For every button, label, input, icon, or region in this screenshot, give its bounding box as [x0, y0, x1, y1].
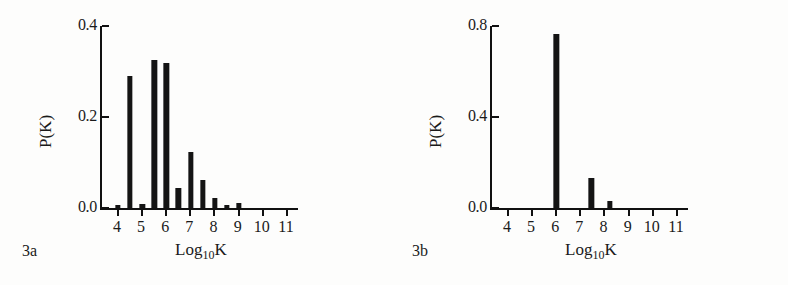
y-axis-title-3b: P(K): [426, 115, 446, 148]
x-tick-mark: 4: [507, 210, 509, 216]
x-tick-label: 8: [209, 218, 217, 236]
bar: [236, 203, 241, 208]
bar: [128, 76, 133, 208]
figure-container: P(K) 0.00.20.4 4567891011 Log10K 3a P(K)…: [0, 0, 788, 285]
panel-tag-3b: 3b: [412, 242, 428, 260]
panel-3b: P(K) 0.00.40.8 4567891011 Log10K 3b: [394, 0, 788, 285]
y-axis-title-3a: P(K): [36, 115, 56, 148]
y-tick-label: 0.4: [78, 16, 97, 34]
bar: [224, 205, 229, 208]
x-tick-label: 11: [668, 218, 683, 236]
y-tick-mark: 0.8: [492, 25, 499, 27]
y-tick-label: 0.4: [468, 107, 487, 125]
x-tick-mark: 10: [262, 210, 264, 216]
bar: [607, 201, 612, 208]
x-tick-label: 10: [254, 218, 270, 236]
y-tick-label: 0.8: [468, 16, 487, 34]
bar: [164, 63, 169, 208]
plot-area-3a: 0.00.20.4 4567891011: [100, 26, 298, 210]
x-axis-title-3b: Log10K: [565, 240, 617, 263]
x-tick-mark: 11: [676, 210, 678, 216]
x-tick-label: 4: [503, 218, 511, 236]
x-tick-mark: 5: [141, 210, 143, 216]
x-tick-label: 8: [599, 218, 607, 236]
x-tick-mark: 6: [555, 210, 557, 216]
bar: [152, 60, 157, 208]
x-tick-label: 6: [551, 218, 559, 236]
y-tick-label: 0.0: [78, 198, 97, 216]
y-tick-mark: 0.2: [102, 116, 109, 118]
x-tick-mark: 7: [579, 210, 581, 216]
x-tick-label: 5: [527, 218, 535, 236]
panel-3a: P(K) 0.00.20.4 4567891011 Log10K 3a: [0, 0, 394, 285]
x-tick-mark: 9: [238, 210, 240, 216]
bar: [188, 152, 193, 208]
plot-area-3b: 0.00.40.8 4567891011: [490, 26, 688, 210]
x-ticks-3b: 4567891011: [490, 208, 688, 210]
bar: [200, 180, 205, 208]
bar: [176, 188, 181, 208]
bar: [212, 198, 217, 208]
x-tick-label: 4: [113, 218, 121, 236]
x-tick-label: 9: [624, 218, 632, 236]
panel-tag-3a: 3a: [22, 242, 37, 260]
x-axis-title-3a: Log10K: [175, 240, 227, 263]
bar: [589, 178, 594, 208]
x-tick-label: 6: [161, 218, 169, 236]
x-tick-mark: 5: [531, 210, 533, 216]
x-tick-label: 10: [644, 218, 660, 236]
x-tick-mark: 9: [628, 210, 630, 216]
bar: [115, 205, 120, 208]
y-tick-label: 0.0: [468, 198, 487, 216]
bar: [140, 204, 145, 208]
y-tick-mark: 0.4: [102, 25, 109, 27]
y-tick-label: 0.2: [78, 107, 97, 125]
x-tick-mark: 8: [213, 210, 215, 216]
x-tick-label: 7: [185, 218, 193, 236]
x-tick-label: 7: [575, 218, 583, 236]
x-tick-mark: 7: [189, 210, 191, 216]
x-tick-mark: 8: [603, 210, 605, 216]
x-tick-label: 5: [137, 218, 145, 236]
x-tick-label: 11: [278, 218, 293, 236]
bar: [554, 34, 559, 208]
y-axis-line-3a: [100, 26, 102, 210]
x-tick-mark: 10: [652, 210, 654, 216]
x-tick-mark: 4: [117, 210, 119, 216]
x-tick-label: 9: [234, 218, 242, 236]
x-ticks-3a: 4567891011: [100, 208, 298, 210]
x-tick-mark: 11: [286, 210, 288, 216]
x-tick-mark: 6: [165, 210, 167, 216]
y-axis-line-3b: [490, 26, 492, 210]
y-tick-mark: 0.4: [492, 116, 499, 118]
